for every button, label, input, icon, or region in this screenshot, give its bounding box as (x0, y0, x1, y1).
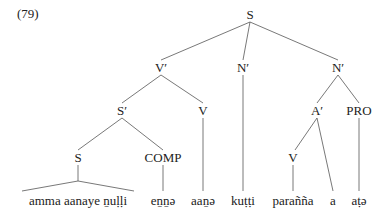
tree-edges (0, 0, 392, 216)
leaf-amma-aanaye-nulli: amma aanaye ṉuḷḷi (29, 194, 127, 208)
node-sbar: S′ (117, 104, 127, 118)
edge-sbar-comp (122, 118, 163, 150)
node-v: V (198, 104, 207, 118)
leaf-paranna: parañña (272, 194, 313, 208)
node-vbar: V′ (155, 61, 167, 75)
edge-vbar-v (161, 75, 203, 103)
triangle (22, 181, 134, 191)
node-abar: A′ (311, 104, 323, 118)
edge-abar-v (295, 118, 317, 150)
edge-vbar-sbar (122, 75, 161, 103)
leaf-kutti: kuṭṭi (231, 194, 255, 208)
node-pro: PRO (346, 104, 371, 118)
edge-s-nbar-right (250, 22, 338, 60)
node-nbar-right: N′ (332, 61, 344, 75)
node-nbar-mid: N′ (237, 61, 249, 75)
edge-s-vbar (161, 22, 250, 60)
edge-abar-a (317, 118, 333, 191)
node-v-low: V (288, 151, 297, 165)
edge-sbar-s (78, 118, 122, 150)
leaf-a: a (330, 194, 336, 208)
edge-s-nbar-mid (243, 22, 250, 60)
edge-nbar-pro (338, 75, 359, 103)
node-comp: COMP (145, 151, 182, 165)
leaf-ate: aṭə (351, 194, 366, 208)
leaf-aane: aaṉə (191, 194, 215, 208)
node-s-low: S (74, 151, 81, 165)
edge-nbar-abar (317, 75, 338, 103)
node-s-root: S (246, 8, 253, 22)
leaf-enne: eṉṉə (151, 194, 176, 208)
